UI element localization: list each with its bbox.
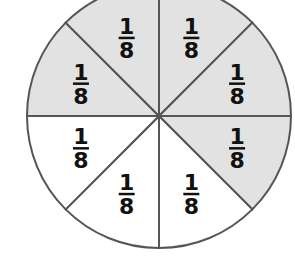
numerator: 1 <box>229 124 244 149</box>
fraction-label: 18 <box>183 170 199 219</box>
numerator: 1 <box>229 60 244 85</box>
fraction-label: 18 <box>73 124 89 173</box>
numerator: 1 <box>73 60 88 85</box>
fraction-label: 18 <box>119 170 135 219</box>
denominator: 8 <box>229 84 244 109</box>
fraction-label: 18 <box>73 60 89 109</box>
denominator: 8 <box>229 148 244 173</box>
numerator: 1 <box>184 170 199 195</box>
fraction-label: 18 <box>183 14 199 63</box>
denominator: 8 <box>73 148 88 173</box>
denominator: 8 <box>73 84 88 109</box>
denominator: 8 <box>184 194 199 219</box>
numerator: 1 <box>73 124 88 149</box>
fraction-label: 18 <box>119 14 135 63</box>
denominator: 8 <box>119 38 134 63</box>
denominator: 8 <box>184 38 199 63</box>
numerator: 1 <box>119 170 134 195</box>
numerator: 1 <box>184 14 199 39</box>
denominator: 8 <box>119 194 134 219</box>
fraction-circle: 1818181818181818 <box>0 0 295 267</box>
numerator: 1 <box>119 14 134 39</box>
fraction-label: 18 <box>229 60 245 109</box>
fraction-label: 18 <box>229 124 245 173</box>
